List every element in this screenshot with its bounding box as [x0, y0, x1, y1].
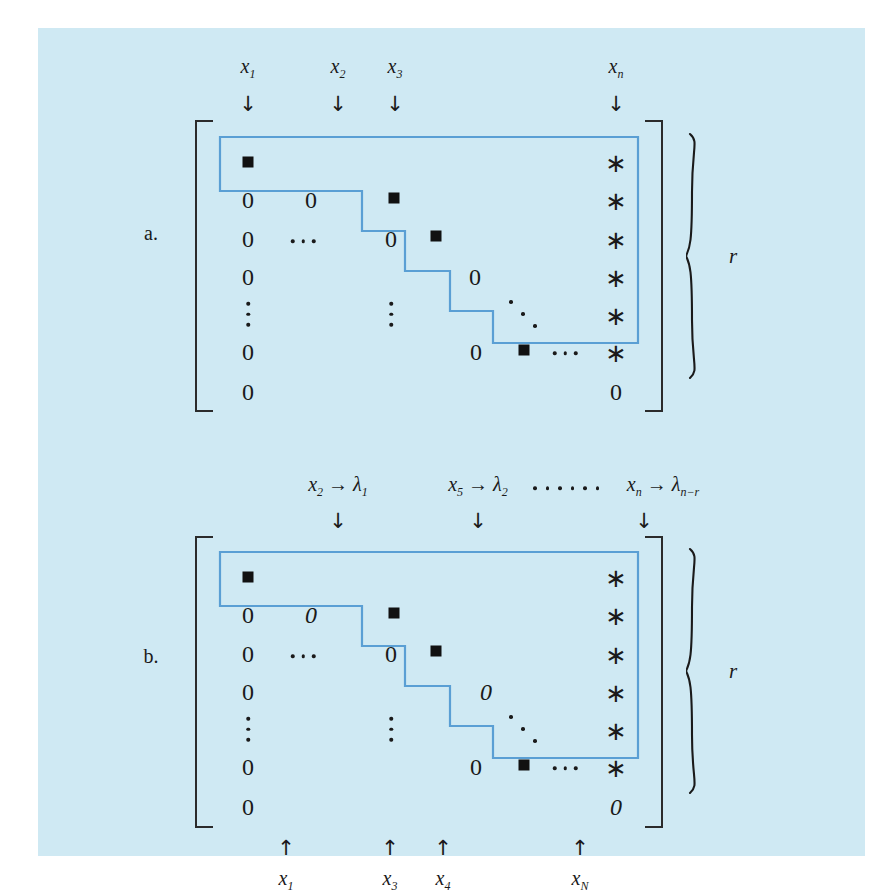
horizontal-ellipsis — [291, 654, 316, 658]
star-entry: ∗ — [605, 566, 627, 592]
up-arrow-x3: ↑ — [381, 838, 399, 859]
star-entry: ∗ — [605, 228, 627, 254]
bottom-label-x3: x3 — [383, 868, 398, 892]
zero-entry: 0 — [385, 642, 397, 666]
horizontal-ellipsis — [553, 351, 578, 355]
pivot-marker — [389, 193, 400, 204]
zero-entry: 0 — [470, 755, 482, 779]
pivot-marker — [389, 608, 400, 619]
horizontal-ellipsis — [291, 239, 316, 243]
figure-page: a. x1 x2 x3 xn ↓ ↓ ↓ ↓ ∗ 0 0 — [0, 0, 892, 896]
zero-entry: 0 — [242, 380, 254, 404]
zero-entry: 0 — [385, 227, 397, 251]
zero-entry: 0 — [305, 188, 317, 212]
zero-entry-italic: 0 — [480, 680, 492, 704]
up-arrow-x1: ↑ — [277, 838, 295, 859]
part-b-group: b. x2 → λ1 x5 → λ2 xn → λn−r ↓ ↓ ↓ ∗ 0 0 — [38, 424, 865, 856]
zero-entry: 0 — [469, 265, 481, 289]
pivot-marker — [431, 231, 442, 242]
zero-entry: 0 — [242, 642, 254, 666]
pivot-marker — [519, 760, 530, 771]
star-entry: ∗ — [605, 341, 627, 367]
bottom-label-x4: x4 — [436, 868, 451, 892]
rank-label-a: r — [729, 246, 737, 267]
zero-entry: 0 — [242, 680, 254, 704]
star-entry: ∗ — [605, 719, 627, 745]
star-entry: ∗ — [605, 189, 627, 215]
up-arrow-x4: ↑ — [434, 838, 452, 859]
zero-entry: 0 — [242, 340, 254, 364]
rank-brace-b — [686, 547, 716, 795]
zero-entry: 0 — [610, 380, 622, 404]
star-entry: ∗ — [605, 681, 627, 707]
bottom-label-xN: xN — [572, 868, 589, 892]
zero-entry: 0 — [242, 603, 254, 627]
pivot-marker — [519, 345, 530, 356]
star-entry: ∗ — [605, 304, 627, 330]
rank-label-b: r — [729, 661, 737, 682]
star-entry: ∗ — [605, 266, 627, 292]
bottom-label-x1: x1 — [279, 868, 294, 892]
matrix-b-echelon-outline — [38, 424, 865, 856]
figure-panel: a. x1 x2 x3 xn ↓ ↓ ↓ ↓ ∗ 0 0 — [38, 28, 865, 856]
star-entry: ∗ — [605, 604, 627, 630]
pivot-marker — [431, 646, 442, 657]
zero-entry-italic: 0 — [305, 603, 317, 627]
zero-entry: 0 — [470, 340, 482, 364]
zero-entry-italic: 0 — [610, 795, 622, 819]
zero-entry: 0 — [242, 188, 254, 212]
vertical-ellipsis — [389, 717, 393, 742]
part-a-group: a. x1 x2 x3 xn ↓ ↓ ↓ ↓ ∗ 0 0 — [38, 28, 865, 428]
star-entry: ∗ — [605, 643, 627, 669]
zero-entry: 0 — [242, 795, 254, 819]
zero-entry: 0 — [242, 755, 254, 779]
vertical-ellipsis — [246, 717, 250, 742]
rank-brace-a — [686, 132, 716, 380]
star-entry: ∗ — [605, 756, 627, 782]
pivot-marker — [243, 157, 254, 168]
diagonal-ellipsis — [506, 712, 540, 746]
vertical-ellipsis — [246, 302, 250, 327]
zero-entry: 0 — [242, 227, 254, 251]
up-arrow-xN: ↑ — [571, 838, 589, 859]
matrix-a-echelon-outline — [38, 28, 865, 428]
diagonal-ellipsis — [506, 297, 540, 331]
vertical-ellipsis — [389, 302, 393, 327]
horizontal-ellipsis — [553, 766, 578, 770]
star-entry: ∗ — [605, 151, 627, 177]
pivot-marker — [243, 572, 254, 583]
zero-entry: 0 — [242, 265, 254, 289]
